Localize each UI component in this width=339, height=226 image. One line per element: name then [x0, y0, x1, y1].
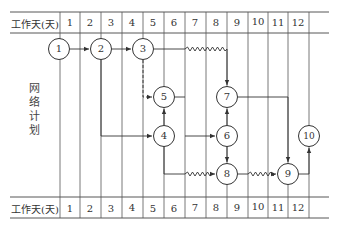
- header-top-day: 9: [227, 17, 247, 28]
- header-bottom-day: 1: [60, 203, 80, 214]
- header-top-day: 5: [143, 17, 163, 28]
- header-top-day: 6: [164, 17, 184, 28]
- node-7: 7: [216, 86, 238, 108]
- node-2: 2: [90, 38, 112, 60]
- edge-7-9: [238, 97, 288, 162]
- header-top-day: 10: [248, 16, 268, 27]
- side-label-network-plan: 网 络 计 划: [27, 82, 41, 138]
- network-plan-diagram: [0, 0, 339, 226]
- header-top-day: 3: [101, 17, 121, 28]
- header-bottom-day: 5: [143, 203, 163, 214]
- node-10: 10: [298, 125, 320, 147]
- node-9: 9: [277, 163, 299, 185]
- edge-8-9: [238, 172, 276, 176]
- header-bottom-day: 10: [248, 201, 268, 212]
- edge-3-7: [154, 47, 227, 85]
- header-top-day: 2: [80, 17, 100, 28]
- header-bottom-day: 7: [185, 202, 205, 213]
- header-bottom-day: 9: [227, 202, 247, 213]
- header-bottom-label: 工作天(天): [11, 201, 59, 216]
- header-bottom-day: 11: [268, 202, 288, 213]
- edge-2-4: [101, 60, 152, 136]
- header-top-day: 12: [288, 17, 308, 28]
- header-bottom-day: 2: [80, 203, 100, 214]
- edge-9-10: [299, 148, 309, 174]
- side-label-char: 划: [27, 124, 41, 138]
- node-5: 5: [153, 86, 175, 108]
- node-1: 1: [48, 38, 70, 60]
- header-bottom-day: 12: [288, 202, 308, 213]
- node-4: 4: [153, 125, 175, 147]
- header-bottom-day: 6: [164, 203, 184, 214]
- header-bottom-day: 3: [101, 203, 121, 214]
- node-3: 3: [132, 38, 154, 60]
- side-label-char: 计: [27, 110, 41, 124]
- node-8: 8: [216, 163, 238, 185]
- edge-4-8: [164, 147, 215, 176]
- header-top-day: 1: [60, 17, 80, 28]
- side-label-char: 络: [27, 96, 41, 110]
- node-6: 6: [216, 125, 238, 147]
- header-top-day: 4: [122, 17, 142, 28]
- header-top-day: 11: [268, 17, 288, 28]
- side-label-char: 网: [27, 82, 41, 96]
- edge-3-5: [143, 60, 152, 97]
- network-edges: [70, 47, 309, 176]
- header-bottom-day: 8: [206, 202, 226, 213]
- header-bottom-day: 4: [122, 202, 142, 213]
- header-top-day: 7: [185, 17, 205, 28]
- header-top-day: 8: [206, 17, 226, 28]
- header-top-label: 工作天(天): [11, 16, 59, 31]
